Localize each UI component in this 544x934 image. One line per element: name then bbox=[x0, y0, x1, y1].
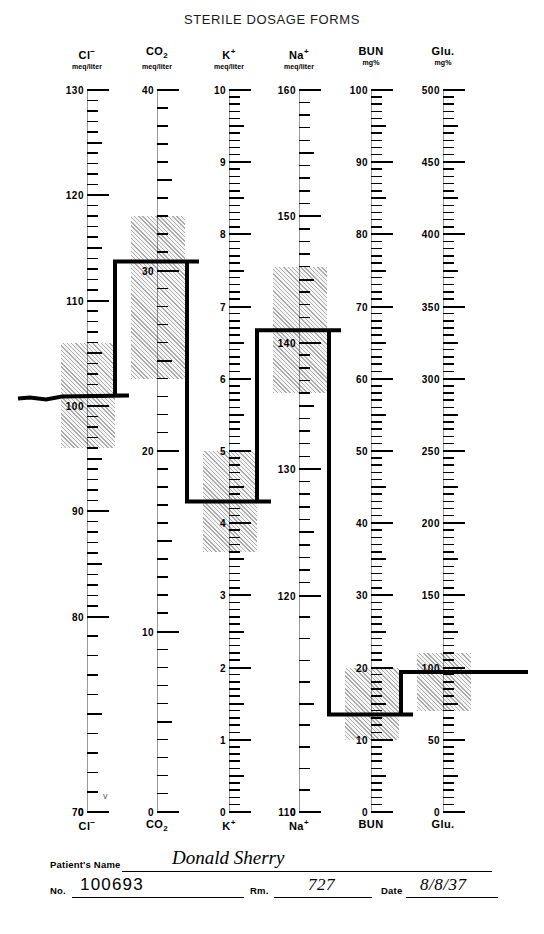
room-value[interactable]: 727 bbox=[308, 875, 335, 895]
patient-name-label: Patient's Name bbox=[50, 859, 121, 870]
patient-name-rule bbox=[122, 871, 492, 872]
room-rule bbox=[274, 897, 372, 898]
stray-pencil-mark: v bbox=[103, 791, 108, 801]
date-label: Date bbox=[381, 885, 402, 896]
room-label: Rm. bbox=[250, 885, 269, 896]
patient-name-row: Patient's Name Donald Sherry bbox=[0, 850, 544, 874]
patient-ids-row: No. 100693 Rm. 727 Date 8/8/37 bbox=[0, 876, 544, 900]
date-rule bbox=[406, 897, 498, 898]
record-no-rule bbox=[72, 897, 244, 898]
lab-flowsheet-page: STERILE DOSAGE FORMS Cl−meq/liter1301201… bbox=[0, 0, 544, 934]
patient-trace-line bbox=[0, 46, 544, 840]
chart-plot-area: Cl−meq/liter1301201101009080700Cl−CO2meq… bbox=[0, 46, 544, 840]
patient-name-value[interactable]: Donald Sherry bbox=[172, 847, 284, 869]
record-no-value[interactable]: 100693 bbox=[80, 875, 144, 895]
date-value[interactable]: 8/8/37 bbox=[420, 875, 466, 895]
record-no-label: No. bbox=[50, 885, 66, 896]
patient-info-form: Patient's Name Donald Sherry No. 100693 … bbox=[0, 846, 544, 934]
trace-polyline bbox=[18, 261, 528, 714]
page-title: STERILE DOSAGE FORMS bbox=[0, 12, 544, 27]
